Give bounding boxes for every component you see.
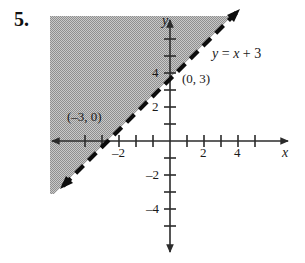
equation-equals: = (218, 46, 233, 61)
y-tick-label-neg4: –4 (146, 202, 159, 215)
y-axis-label: y (162, 14, 168, 28)
x-tick-label-4: 4 (234, 146, 241, 159)
y-tick-label-4: 4 (152, 66, 159, 79)
equation-remainder: + 3 (239, 46, 261, 61)
x-intercept-label: (–3, 0) (67, 110, 102, 123)
x-tick-label-2: 2 (200, 146, 207, 159)
y-tick-label-neg2: –2 (146, 168, 159, 181)
y-intercept-label: (0, 3) (182, 72, 210, 85)
graph-canvas (0, 0, 305, 263)
x-tick-label-neg2: –2 (112, 146, 125, 159)
y-tick-label-2: 2 (152, 100, 159, 113)
x-axis-label: x (282, 146, 288, 160)
inequality-graph-figure: 5. (0, 0, 305, 263)
equation-label: y = x + 3 (212, 47, 261, 61)
